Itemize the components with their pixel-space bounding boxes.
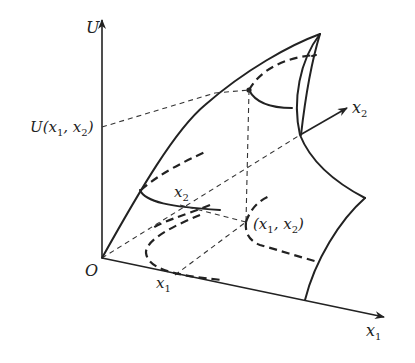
x1-axis-label: x1 bbox=[366, 321, 381, 342]
x1-projection bbox=[175, 222, 246, 275]
x1-mark-label: x1 bbox=[156, 274, 171, 294]
x2-projection bbox=[180, 205, 246, 222]
u-axis-label: U bbox=[86, 18, 100, 37]
level-curve-lower-dashed bbox=[141, 152, 205, 190]
vertical-projection bbox=[246, 90, 249, 222]
x2-axis-label: x2 bbox=[352, 98, 367, 119]
x2-mark-label: x2 bbox=[174, 183, 189, 203]
x2-axis-visible bbox=[300, 108, 347, 135]
level-curve-upper-end bbox=[312, 55, 316, 56]
surface-right-edge bbox=[305, 198, 365, 300]
u-value-label: U(x1, x2) bbox=[30, 118, 94, 138]
x1-axis bbox=[102, 258, 384, 317]
origin-label: O bbox=[85, 261, 98, 280]
utility-surface-diagram: U U(x1, x2) O x1 x2 x1 x2 (x1, x2) bbox=[0, 0, 415, 363]
point-label: (x1, x2) bbox=[253, 215, 304, 235]
level-curve-upper-solid bbox=[249, 90, 292, 108]
